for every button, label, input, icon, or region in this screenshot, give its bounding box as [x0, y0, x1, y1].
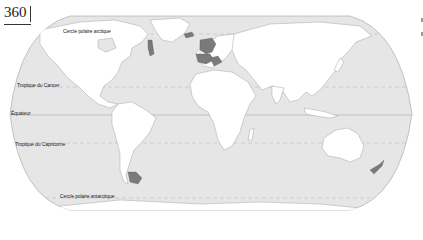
label-equator: Équateur — [11, 110, 31, 116]
label-antarctic-circle: Cercle polaire antarctique — [60, 193, 114, 199]
label-tropic-of-capricorn: Tropique du Capricorne — [15, 141, 65, 147]
label-arctic-circle: Cercle polaire arctique — [63, 28, 111, 34]
label-tropic-of-cancer: Tropique du Cancer — [17, 82, 59, 88]
